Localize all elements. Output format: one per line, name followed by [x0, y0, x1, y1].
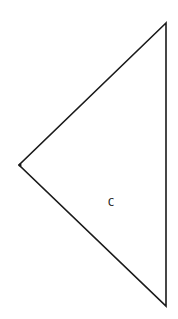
triangle-diagram: C	[0, 0, 178, 319]
triangle-canvas	[0, 0, 178, 319]
left-vertex-point	[18, 163, 21, 166]
triangle-c	[19, 23, 166, 306]
triangle-label: C	[108, 197, 115, 208]
